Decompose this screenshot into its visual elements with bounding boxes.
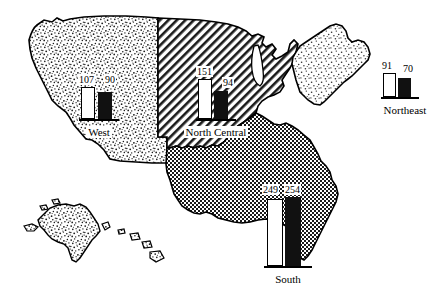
chart-ne-bars [378,73,440,97]
chart-west-light-value: 107 [78,74,95,85]
chart-ne-region-label: Northeast [382,104,429,116]
chart-south-dark-value: 254 [284,184,301,195]
chart-south-light-value: 249 [262,184,279,195]
chart-south-value-labels: 249 254 [262,184,332,197]
us-region-map [0,0,440,293]
chart-south-bar-dark[interactable] [285,197,301,266]
chart-south-region-label: South [273,273,303,285]
figure-root: 107 90 West 151 94 North Central 249 254 [0,0,440,293]
chart-nc-bars [192,79,282,119]
chart-south-bars [262,197,332,266]
chart-west-axis [79,119,119,121]
chart-nc-axis [196,119,236,121]
chart-nc-region-label: North Central [184,126,249,138]
chart-ne-bar-light[interactable] [383,73,396,97]
chart-nc-light-value: 151 [196,66,213,77]
chart-west[interactable]: 107 90 West [76,74,132,140]
chart-nc-bar-light[interactable] [198,79,212,119]
chart-ne-axis [381,97,419,99]
map-region-northeast[interactable] [292,24,370,105]
chart-west-value-labels: 107 90 [76,74,132,87]
chart-north-central[interactable]: 151 94 North Central [192,66,282,140]
chart-south-bar-light[interactable] [267,199,283,266]
chart-west-bars [76,87,132,119]
chart-ne-value-labels: 91 70 [378,60,440,73]
map-inset-alaska[interactable] [24,199,100,262]
chart-west-bar-dark[interactable] [98,92,112,119]
chart-west-region-label: West [86,126,112,138]
chart-nc-bar-dark[interactable] [214,91,228,119]
chart-west-dark-value: 90 [104,74,116,85]
chart-ne-bar-dark[interactable] [398,78,411,97]
chart-south-axis [264,266,312,268]
chart-west-bar-light[interactable] [81,87,95,119]
chart-nc-value-labels: 151 94 [192,66,282,79]
chart-northeast[interactable]: 91 70 Northeast [378,60,440,118]
chart-south[interactable]: 249 254 South [262,184,332,287]
chart-ne-light-value: 91 [381,60,393,71]
map-inset-hawaii[interactable] [102,222,164,262]
